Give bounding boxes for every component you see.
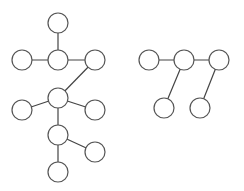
node-G xyxy=(85,100,105,120)
node-B xyxy=(12,50,32,70)
node-C xyxy=(48,50,68,70)
node-E xyxy=(48,88,68,108)
node-I xyxy=(85,142,105,162)
graph-diagram xyxy=(0,0,244,191)
node-M xyxy=(209,50,229,70)
nodes-layer xyxy=(12,13,229,182)
node-F xyxy=(12,100,32,120)
node-K xyxy=(139,50,159,70)
node-H xyxy=(48,125,68,145)
node-D xyxy=(85,50,105,70)
node-O xyxy=(190,98,210,118)
diagram-canvas xyxy=(0,0,244,191)
node-L xyxy=(174,50,194,70)
node-A xyxy=(48,13,68,33)
node-J xyxy=(48,162,68,182)
node-N xyxy=(154,98,174,118)
